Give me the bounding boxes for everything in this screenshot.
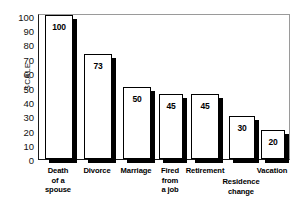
bar: 50 <box>123 87 151 159</box>
category-label: Residencechange <box>201 177 281 196</box>
y-tick-100: 100 <box>8 13 34 23</box>
bar: 20 <box>261 130 285 159</box>
category-label-line: from <box>130 176 210 186</box>
category-label-line: Residence <box>201 177 281 187</box>
bar: 45 <box>159 94 183 159</box>
bar-value-label: 30 <box>230 124 254 133</box>
bar-value-label: 100 <box>46 23 72 32</box>
category-label-line: a job <box>130 185 210 195</box>
y-tick-10: 10 <box>8 142 34 152</box>
bar-chart: SCALE 100 90 80 70 60 50 40 30 20 10 0 1… <box>0 0 300 221</box>
category-label-line: of a <box>18 176 98 186</box>
bar-value-label: 50 <box>124 95 150 104</box>
y-tick-40: 40 <box>8 99 34 109</box>
y-tick-50: 50 <box>8 85 34 95</box>
bar: 100 <box>45 15 73 159</box>
bar: 45 <box>191 94 219 159</box>
category-label-line: Vacation <box>232 166 300 176</box>
bar-body: 45 <box>159 94 183 159</box>
bar-body: 20 <box>261 130 285 159</box>
category-label-line: spouse <box>18 185 98 195</box>
bar-body: 73 <box>84 54 112 159</box>
y-tick-70: 70 <box>8 56 34 66</box>
bar-value-label: 45 <box>192 102 218 111</box>
y-tick-30: 30 <box>8 113 34 123</box>
bar: 73 <box>84 54 112 159</box>
y-tick-80: 80 <box>8 41 34 51</box>
category-label: Vacation <box>232 166 300 176</box>
category-label-line: change <box>201 187 281 197</box>
bar-body: 100 <box>45 15 73 159</box>
y-tick-60: 60 <box>8 70 34 80</box>
y-tick-20: 20 <box>8 128 34 138</box>
bar-body: 50 <box>123 87 151 159</box>
y-tick-0: 0 <box>8 156 34 166</box>
bar-body: 30 <box>229 116 255 159</box>
y-tick-90: 90 <box>8 27 34 37</box>
plot-area: 100735045453020 <box>38 14 290 160</box>
bar: 30 <box>229 116 255 159</box>
bar-value-label: 20 <box>262 138 284 147</box>
bar-body: 45 <box>191 94 219 159</box>
bar-value-label: 45 <box>160 102 182 111</box>
bar-value-label: 73 <box>85 62 111 71</box>
